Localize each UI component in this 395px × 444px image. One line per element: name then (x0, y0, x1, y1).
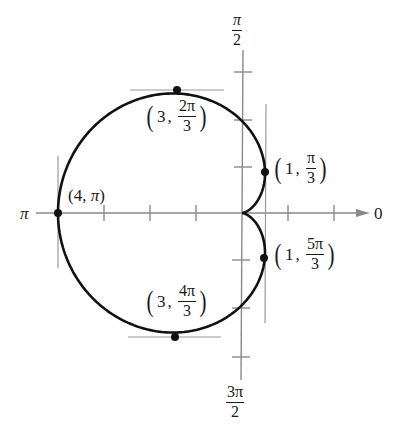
frac-den: 3 (183, 117, 191, 135)
label-1-pi3: (1, π3) (273, 150, 328, 187)
frac-num: π (306, 150, 316, 169)
frac-den: 3 (311, 255, 319, 273)
axis-arrow-icon (356, 209, 370, 217)
axis-label-0: 0 (374, 205, 383, 222)
point-1-5pi3 (260, 254, 268, 262)
tangent-right (265, 104, 266, 323)
label-r: 1 (285, 246, 294, 263)
label-3-2pi3: (3, 2π3) (145, 98, 208, 135)
frac-num: 2π (178, 98, 196, 117)
frac-num: 4π (178, 283, 196, 302)
polar-graph (0, 0, 395, 444)
point-1-pi3 (261, 168, 269, 176)
label-1-5pi3: (1, 5π3) (273, 236, 336, 273)
frac-den: 2 (231, 403, 239, 421)
point-4-pi (54, 209, 62, 217)
axis-label-pi: π (20, 205, 29, 222)
label-theta: π (91, 186, 100, 205)
vertical-axis (241, 50, 243, 380)
frac-den: 3 (183, 302, 191, 320)
axis-label-3pi-over-2: 3π2 (226, 384, 244, 421)
label-r: 3 (157, 293, 166, 310)
label-r: 4 (74, 186, 83, 205)
frac-den: 3 (307, 169, 315, 187)
axis-label-pi-over-2: π2 (232, 12, 242, 49)
frac-num: 3π (226, 384, 244, 403)
label-r: 3 (157, 108, 166, 125)
frac-den: 2 (233, 31, 241, 49)
label-4-pi: (4, π) (68, 187, 105, 204)
point-3-2pi3 (173, 86, 181, 94)
label-3-4pi3: (3, 4π3) (145, 283, 208, 320)
label-r: 1 (285, 160, 294, 177)
frac-num: π (232, 12, 242, 31)
point-3-4pi3 (171, 333, 179, 341)
frac-num: 5π (306, 236, 324, 255)
